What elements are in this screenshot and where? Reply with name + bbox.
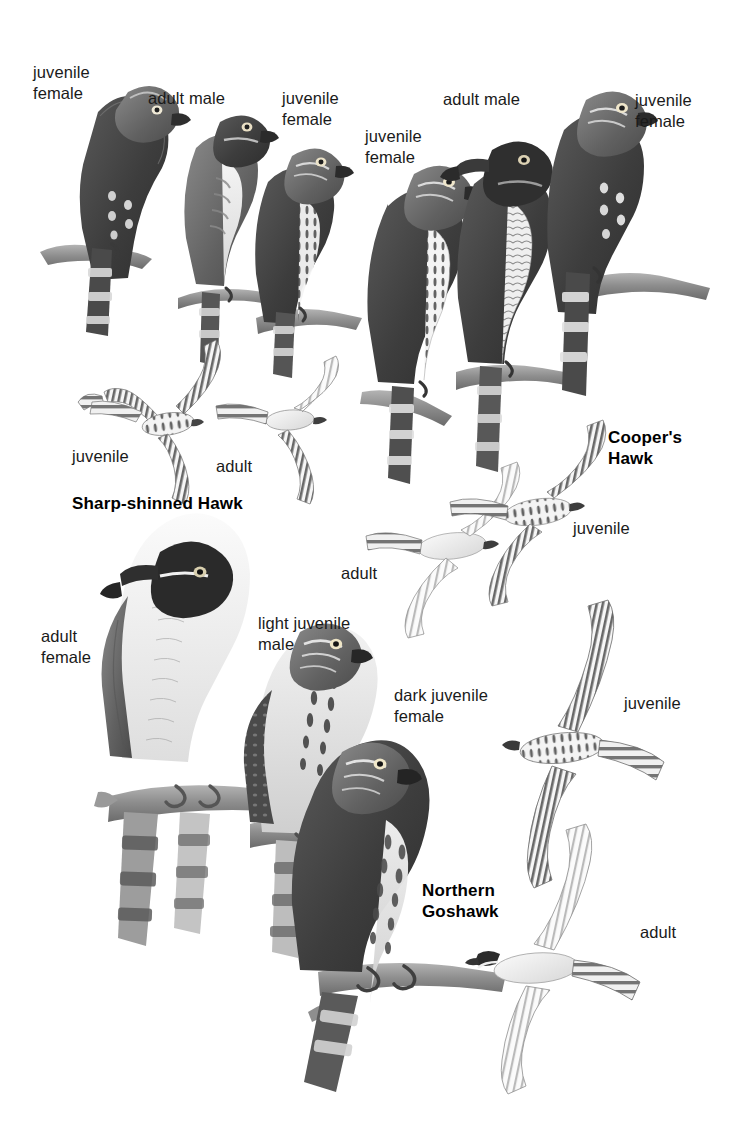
label-ssh-adult-male: adult male [148,88,225,109]
label-ngo-dark-juvenile-female: dark juvenile female [394,685,488,727]
figure-coh-juvenile-female-perched-2 [547,91,710,396]
label-coh-juvenile-female-2: juvenile female [635,90,692,132]
label-coh-adult-flight: adult [341,563,377,584]
figure-ssh-adult-male-perched [178,115,279,366]
figure-coh-adult-male-perched [440,141,576,472]
figure-ssh-adult-flight [216,356,339,504]
figure-ngo-juvenile-flight [502,600,664,888]
label-ssh-adult-flight: adult [216,456,252,477]
species-name-sharp-shinned-hawk: Sharp-shinned Hawk [72,494,243,515]
figure-ngo-light-juvenile-male-perched [244,623,410,958]
figure-coh-juvenile-flight [450,420,606,606]
figure-ssh-juvenile-female-perched [40,86,191,336]
label-coh-juvenile-female: juvenile female [365,126,422,168]
label-ssh-juvenile-female: juvenile female [33,62,90,104]
label-ssh-juvenile-female-2: juvenile female [282,88,339,130]
label-coh-adult-male: adult male [443,89,520,110]
figure-ssh-juvenile-flight [78,340,221,504]
species-name-coopers-hawk: Cooper's Hawk [608,428,682,469]
figure-ngo-adult-female-perched [94,513,350,946]
label-ngo-juvenile-flight: juvenile [624,693,681,714]
field-guide-plate: juvenile female adult male juvenile fema… [0,0,735,1141]
label-coh-juvenile-flight: juvenile [573,518,630,539]
label-ngo-light-juvenile-male: light juvenile male [258,613,350,655]
label-ngo-adult-flight: adult [640,922,676,943]
label-ssh-juvenile-flight: juvenile [72,446,129,467]
figure-ngo-adult-flight [465,824,640,1094]
figure-coh-juvenile-female-perched [360,166,485,484]
species-name-northern-goshawk: Northern Goshawk [422,881,499,922]
figure-coh-adult-flight [366,462,520,638]
figure-ssh-juvenile-female-perched-2 [255,148,362,378]
label-ngo-adult-female: adult female [41,626,91,668]
